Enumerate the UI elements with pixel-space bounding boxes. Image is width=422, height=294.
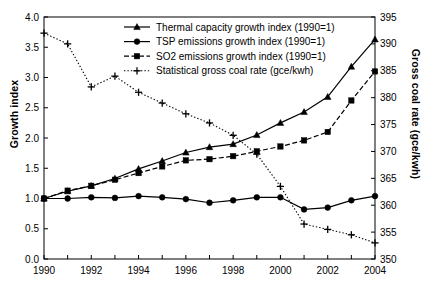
series-0-point <box>372 36 379 42</box>
series-2-point <box>325 129 330 134</box>
legend-label-2: SO2 emissions growth index (1990=1) <box>156 51 326 62</box>
series-1-point <box>254 194 260 200</box>
series-1-point <box>372 193 378 199</box>
series-3-point <box>40 30 47 37</box>
series-1-point <box>183 196 189 202</box>
series-2-point <box>136 170 141 175</box>
series-3-point <box>135 89 142 96</box>
x-tick-label: 2002 <box>317 265 340 276</box>
left-tick-label: 3.5 <box>25 42 39 53</box>
series-1-point <box>207 200 213 206</box>
legend-marker-3 <box>133 67 140 74</box>
series-3-point <box>348 231 355 238</box>
x-tick-label: 2000 <box>269 265 292 276</box>
series-0-point <box>253 132 260 138</box>
left-tick-label: 1.0 <box>25 193 39 204</box>
left-tick-label: 0.5 <box>25 223 39 234</box>
right-tick-label: 360 <box>380 200 397 211</box>
series-1-point <box>112 195 118 201</box>
x-tick-label: 2004 <box>364 265 387 276</box>
left-tick-label: 0.0 <box>25 254 39 265</box>
series-3-point <box>230 132 237 139</box>
series-2-point <box>301 138 306 143</box>
right-tick-label: 370 <box>380 146 397 157</box>
left-tick-label: 1.5 <box>25 163 39 174</box>
series-3-point <box>159 99 166 106</box>
left-tick-label: 2.0 <box>25 133 39 144</box>
series-1-point <box>159 194 165 200</box>
series-line-0 <box>44 39 375 198</box>
legend-label-3: Statistical gross coal rate (gce/kwh) <box>156 65 313 76</box>
right-tick-label: 365 <box>380 173 397 184</box>
chart-legend: Thermal capacity growth index (1990=1)TS… <box>124 22 335 77</box>
left-tick-label: 3.0 <box>25 72 39 83</box>
series-line-2 <box>44 71 375 198</box>
series-3-point <box>88 83 95 90</box>
series-2-point <box>65 188 70 193</box>
series-2-point <box>112 177 117 182</box>
x-tick-label: 1994 <box>127 265 150 276</box>
series-2-point <box>89 183 94 188</box>
series-2-point <box>207 156 212 161</box>
series-1-point <box>278 194 284 200</box>
right-tick-label: 375 <box>380 119 397 130</box>
series-1-point <box>301 206 307 212</box>
series-2-point <box>230 153 235 158</box>
legend-marker-1 <box>134 39 140 45</box>
legend-label-1: TSP emissions growth index (1990=1) <box>156 36 325 47</box>
x-tick-label: 1992 <box>80 265 103 276</box>
right-tick-label: 390 <box>380 38 397 49</box>
left-tick-label: 4.0 <box>25 12 39 23</box>
x-tick-label: 1996 <box>175 265 198 276</box>
series-2-point <box>41 196 46 201</box>
data-series-group <box>40 30 378 247</box>
series-3-point <box>324 226 331 233</box>
series-3-point <box>300 220 307 227</box>
series-2-point <box>183 158 188 163</box>
series-1-point <box>230 197 236 203</box>
x-tick-label: 1990 <box>33 265 56 276</box>
legend-label-0: Thermal capacity growth index (1990=1) <box>156 22 335 33</box>
series-2-point <box>278 144 283 149</box>
left-axis-ticks: 0.00.51.01.52.02.53.03.54.0 <box>25 12 48 265</box>
right-tick-label: 350 <box>380 254 397 265</box>
series-0-point <box>301 109 308 115</box>
legend-marker-2 <box>134 54 139 59</box>
series-3-point <box>64 40 71 47</box>
series-3-point <box>111 73 118 80</box>
series-1-point <box>136 193 142 199</box>
right-tick-label: 385 <box>380 65 397 76</box>
series-2-point <box>160 164 165 169</box>
series-3-point <box>182 110 189 117</box>
series-3-point <box>206 119 213 126</box>
left-tick-label: 2.5 <box>25 102 39 113</box>
series-2-point <box>372 69 377 74</box>
right-tick-label: 395 <box>380 12 397 23</box>
x-tick-label: 1998 <box>222 265 245 276</box>
right-tick-label: 380 <box>380 92 397 103</box>
right-tick-label: 355 <box>380 227 397 238</box>
series-1-point <box>88 194 94 200</box>
series-3-point <box>371 239 378 246</box>
x-axis-ticks: 19901992199419961998200020022004 <box>33 255 387 276</box>
series-1-point <box>65 196 71 202</box>
series-2-point <box>349 98 354 103</box>
series-1-point <box>325 205 331 211</box>
series-1-point <box>348 197 354 203</box>
